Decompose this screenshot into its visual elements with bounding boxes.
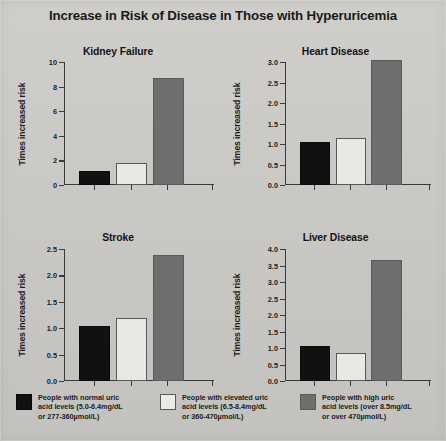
bar-high (371, 60, 402, 185)
y-axis-line (285, 249, 286, 381)
y-tick (280, 185, 285, 186)
y-tick-label: 2.0 (268, 99, 278, 108)
legend-item-elevated: People with elevated uricacid levels (6.… (160, 393, 300, 421)
panel-title: Stroke (18, 232, 218, 243)
legend-label-line: People with elevated uric (182, 393, 268, 402)
panel-title: Kidney Failure (18, 46, 218, 57)
y-tick (280, 348, 285, 349)
y-tick-label: 0.5 (47, 350, 57, 359)
y-axis-label-text: Times increased risk (233, 82, 243, 165)
legend-label-line: acid levels (5.0-6.4mg/dL (38, 402, 123, 411)
y-axis-label: Times increased risk (16, 249, 29, 381)
y-tick-label: 1.0 (268, 140, 278, 149)
figure: Increase in Risk of Disease in Those wit… (0, 0, 446, 441)
y-tick-label: 2 (53, 156, 57, 165)
y-tick-label: 2.5 (268, 294, 278, 303)
y-tick (280, 165, 285, 166)
y-tick (59, 328, 64, 329)
y-tick (280, 315, 285, 316)
legend-label-line: People with normal uric (38, 393, 123, 402)
legend-label-line: or 277-360µmol/L) (38, 412, 123, 421)
legend-swatch-black-filled-square (16, 394, 32, 410)
figure-title: Increase in Risk of Disease in Those wit… (0, 8, 446, 23)
y-tick-label: 1.0 (47, 324, 57, 333)
y-tick-label: 0.0 (47, 377, 57, 386)
y-tick-label: 4.0 (268, 245, 278, 254)
y-tick-label: 0.5 (268, 360, 278, 369)
y-tick-label: 2.0 (268, 311, 278, 320)
y-tick-label: 2.5 (268, 78, 278, 87)
y-axis-label-text: Times increased risk (233, 274, 243, 357)
y-tick-label: 1.5 (268, 119, 278, 128)
plot-area: 0.00.51.01.52.02.53.03.54.0 (285, 249, 431, 381)
legend-label-line: acid levels (6.5-8.4mg/dL (182, 402, 268, 411)
legend-label-line: acid levels (over 8.5mg/dL (322, 402, 412, 411)
y-tick (280, 144, 285, 145)
x-tick (386, 185, 387, 190)
y-tick (59, 185, 64, 186)
y-tick-label: 0 (53, 181, 57, 190)
legend-label: People with high uricacid levels (over 8… (322, 393, 412, 421)
legend-label: People with normal uricacid levels (5.0-… (38, 393, 123, 421)
x-tick (429, 381, 430, 386)
x-tick (429, 185, 430, 190)
chart-panel-liver-disease: Liver DiseaseTimes increased risk0.00.51… (233, 232, 438, 387)
legend-label-line: People with high uric (322, 393, 412, 402)
x-tick (212, 381, 213, 386)
x-tick (350, 381, 351, 386)
plot-area: 0.00.51.01.52.02.5 (64, 249, 214, 381)
bar-high (371, 260, 402, 381)
y-axis-line (64, 249, 65, 381)
panel-title: Liver Disease (233, 232, 438, 243)
y-tick (59, 160, 64, 161)
y-tick-label: 10 (49, 58, 57, 67)
y-axis-label: Times increased risk (231, 62, 244, 185)
y-tick (59, 136, 64, 137)
legend-label: People with elevated uricacid levels (6.… (182, 393, 268, 421)
y-tick (280, 299, 285, 300)
y-axis-label: Times increased risk (231, 249, 244, 381)
y-axis-label-text: Times increased risk (18, 274, 28, 357)
y-tick-label: 2.5 (47, 245, 57, 254)
bar-normal (79, 171, 110, 185)
bar-elevated (116, 318, 147, 381)
y-tick-label: 8 (53, 82, 57, 91)
bar-normal (300, 346, 331, 381)
y-tick (280, 381, 285, 382)
y-tick-label: 1.5 (268, 327, 278, 336)
x-tick (212, 185, 213, 190)
x-tick (350, 185, 351, 190)
legend-label-line: or 360-470µmol/L) (182, 412, 268, 421)
y-tick-label: 4 (53, 131, 57, 140)
bar-elevated (336, 138, 367, 185)
legend: People with normal uricacid levels (5.0-… (0, 393, 446, 439)
panel-title: Heart Disease (233, 46, 438, 57)
y-tick (280, 332, 285, 333)
x-tick (314, 381, 315, 386)
y-tick (280, 365, 285, 366)
y-tick (280, 62, 285, 63)
legend-swatch-white-open-square (160, 394, 176, 410)
bar-normal (79, 326, 110, 381)
bar-high (153, 255, 184, 381)
y-tick (59, 249, 64, 250)
y-tick (59, 275, 64, 276)
y-tick-label: 6 (53, 107, 57, 116)
plot-area: 0246810 (64, 62, 214, 185)
y-tick (280, 103, 285, 104)
y-tick (280, 282, 285, 283)
x-tick (167, 381, 168, 386)
y-tick-label: 0.0 (268, 181, 278, 190)
plot-area: 0.00.51.01.52.02.53.0 (285, 62, 431, 185)
legend-item-high: People with high uricacid levels (over 8… (300, 393, 442, 421)
y-axis-line (64, 62, 65, 185)
y-tick (59, 355, 64, 356)
legend-label-line: or over 470µmol/L) (322, 412, 412, 421)
y-tick-label: 3.5 (268, 261, 278, 270)
x-tick (167, 185, 168, 190)
chart-panel-stroke: StrokeTimes increased risk0.00.51.01.52.… (18, 232, 218, 387)
y-tick (280, 124, 285, 125)
chart-panel-kidney-failure: Kidney FailureTimes increased risk024681… (18, 46, 218, 191)
chart-panel-heart-disease: Heart DiseaseTimes increased risk0.00.51… (233, 46, 438, 191)
y-tick (59, 87, 64, 88)
